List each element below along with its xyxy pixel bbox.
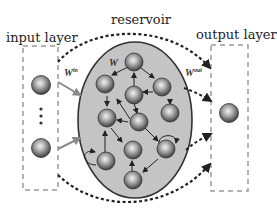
- reservoir-node: [97, 152, 115, 170]
- reservoir-node: [124, 141, 142, 159]
- reservoir-node: [157, 140, 175, 158]
- w-out-label: Wout: [185, 67, 202, 78]
- w-in-label: Win: [64, 67, 79, 78]
- input-layer-label: input layer: [6, 30, 79, 45]
- input-node: [32, 139, 51, 158]
- input-arrow-top: [58, 82, 80, 95]
- input-node: [32, 76, 51, 95]
- diagram-svg: input layer reservoir output layer Win W…: [0, 0, 277, 213]
- reservoir-node: [124, 171, 142, 189]
- input-arrow-bottom: [58, 138, 80, 149]
- reservoir-node: [161, 104, 179, 122]
- reservoir-node: [96, 75, 114, 93]
- reservoir-node: [130, 113, 148, 131]
- w-label: W: [109, 57, 119, 68]
- ellipsis-dots: [39, 107, 42, 124]
- reservoir-node: [125, 86, 143, 104]
- output-node: [220, 104, 239, 123]
- reservoir-node: [153, 78, 171, 96]
- reservoir-computing-diagram: input layer reservoir output layer Win W…: [0, 0, 277, 213]
- input-layer-box: [23, 46, 58, 190]
- reservoir-node: [125, 53, 143, 71]
- reservoir-label: reservoir: [111, 12, 172, 27]
- reservoir-node: [98, 109, 116, 127]
- output-layer-label: output layer: [196, 27, 277, 42]
